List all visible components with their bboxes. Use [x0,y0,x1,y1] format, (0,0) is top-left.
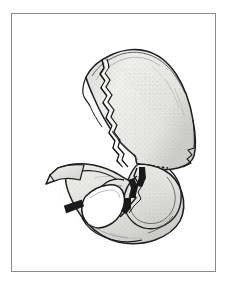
figure-root: Hemipelvis with vertical fracture innomi… [0,0,227,287]
iliac-wing-group [82,48,202,178]
hemipelvis-illustration [24,28,227,285]
iliac-stipple-shading [82,48,202,178]
hemipelvis-svg [24,28,227,285]
plate-border: Hemipelvis with vertical fracture innomi… [11,13,216,272]
